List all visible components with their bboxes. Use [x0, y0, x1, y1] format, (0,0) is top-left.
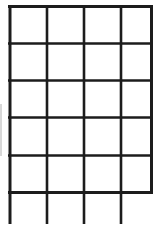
table-cell[interactable] [11, 119, 46, 155]
grid-canvas [0, 0, 157, 230]
table-cell[interactable] [11, 45, 46, 80]
left-edge-scan-artifact [0, 104, 2, 156]
table-cell[interactable] [11, 157, 46, 192]
table-cell[interactable] [122, 194, 156, 224]
table-cell[interactable] [11, 194, 46, 224]
table-cell[interactable] [122, 7, 151, 43]
table-cell[interactable] [48, 7, 83, 43]
table-cell[interactable] [48, 82, 83, 117]
table-cell[interactable] [122, 119, 151, 155]
table-cell[interactable] [122, 45, 151, 80]
table-cell[interactable] [122, 82, 151, 117]
table-cell[interactable] [48, 45, 83, 80]
table-cell[interactable] [48, 194, 83, 224]
table-cell[interactable] [11, 82, 46, 117]
table-cell[interactable] [85, 157, 120, 192]
table-cell[interactable] [48, 119, 83, 155]
table-cell[interactable] [85, 194, 120, 224]
table-cell[interactable] [85, 45, 120, 80]
table-cell[interactable] [85, 119, 120, 155]
table-cell[interactable] [85, 7, 120, 43]
table-cell[interactable] [85, 82, 120, 117]
table-cell[interactable] [48, 157, 83, 192]
table-cell[interactable] [122, 157, 151, 192]
table-cell[interactable] [11, 7, 46, 43]
